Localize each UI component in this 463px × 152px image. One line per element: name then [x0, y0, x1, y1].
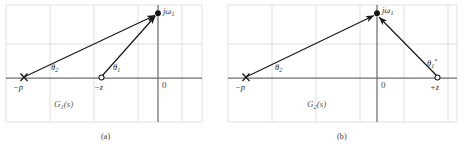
panel-b-grid: [228, 5, 457, 122]
panel-a-pole-cross-icon: [21, 74, 28, 82]
panel-a-test-point-label: jω1: [163, 6, 174, 17]
panel-b-pole-label: −p: [235, 82, 245, 92]
panel-a-zero-label: −z: [94, 82, 103, 92]
panel-b-axes: [228, 5, 457, 122]
panel-a-theta2-label: θ2: [51, 62, 58, 73]
panel-b-test-point-icon: [374, 10, 380, 16]
panel-a-system-label: G1(s): [54, 99, 73, 110]
pole-zero-plot-svg: [0, 0, 463, 152]
panel-b-origin-label: 0: [381, 80, 386, 90]
figure-root: jω1 θ2 θ1 −p −z 0 G1(s) (a) jω1 θ2 θ1* −…: [0, 0, 463, 152]
panel-b-theta2-label: θ2: [275, 62, 282, 73]
panel-a-axes: [6, 5, 202, 122]
panel-b-theta1-star-label: θ1*: [427, 58, 437, 69]
panel-a-pole-vector: [24, 16, 155, 78]
panel-b-pole-vector: [246, 16, 374, 77]
panel-a-test-point-icon: [155, 10, 161, 16]
panel-a-theta1-label: θ1: [113, 62, 120, 73]
panel-b-test-point-label: jω1: [382, 5, 393, 16]
panel-a-grid: [6, 5, 202, 122]
panel-a-origin-label: 0: [162, 80, 167, 90]
panel-b-pole-cross-icon: [243, 74, 250, 82]
panel-a-zero-vector: [102, 17, 155, 77]
panel-b-system-label: G2(s): [307, 99, 326, 110]
panel-a-pole-label: −p: [13, 82, 23, 92]
panel-a-vectors: [24, 16, 155, 78]
panel-b-zero-open-circle-icon: [435, 75, 440, 80]
panel-b-caption: (b): [337, 132, 347, 141]
panel-a-zero-open-circle-icon: [99, 75, 104, 80]
panel-b-zero-label: +z: [430, 82, 439, 92]
panel-a-caption: (a): [101, 132, 110, 141]
